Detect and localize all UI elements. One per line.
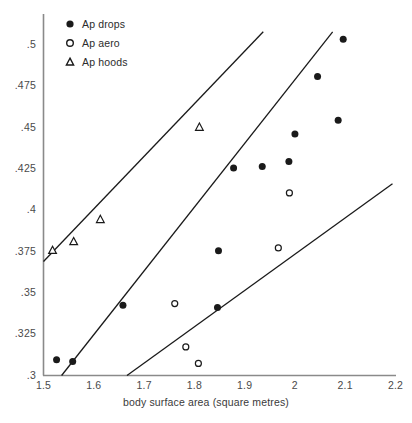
data-point-open-circle xyxy=(172,301,178,307)
series-ap-aero xyxy=(172,190,293,367)
x-tick-label: 1.7 xyxy=(124,379,164,391)
legend-label-ap-hoods: Ap hoods xyxy=(82,56,128,68)
x-tick-label: 2.1 xyxy=(325,379,365,391)
data-point-triangle xyxy=(96,215,104,222)
ap-aero-fit-line xyxy=(127,184,393,376)
data-point-filled-circle xyxy=(340,36,347,43)
legend-label-ap-aero: Ap aero xyxy=(82,37,120,49)
data-point-filled-circle xyxy=(314,73,321,80)
ap-drops-fit-line xyxy=(62,32,333,376)
data-point-open-circle xyxy=(183,344,189,350)
data-point-triangle xyxy=(196,123,204,130)
x-tick-label: 1.8 xyxy=(174,379,214,391)
legend-item-ap-drops: Ap drops xyxy=(62,14,202,33)
legend-item-ap-aero: Ap aero xyxy=(62,33,202,52)
data-point-open-circle xyxy=(275,245,281,251)
filled-circle-icon xyxy=(62,16,78,32)
data-point-filled-circle xyxy=(335,117,342,124)
x-tick-label: 1.9 xyxy=(225,379,265,391)
y-tick-label: .45 xyxy=(2,121,36,133)
y-tick-label: .4 xyxy=(2,203,36,215)
data-point-filled-circle xyxy=(291,130,298,137)
legend: Ap drops Ap aero Ap hoods xyxy=(62,14,202,71)
data-point-filled-circle xyxy=(215,247,222,254)
data-point-filled-circle xyxy=(259,163,266,170)
x-tick-label: 2.2 xyxy=(376,379,412,391)
y-tick-label: .425 xyxy=(2,162,36,174)
x-tick-label: 1.6 xyxy=(74,379,114,391)
series-ap-hoods xyxy=(49,123,204,253)
legend-item-ap-hoods: Ap hoods xyxy=(62,52,202,71)
data-point-triangle xyxy=(70,237,78,244)
data-point-open-circle xyxy=(195,360,201,366)
data-point-filled-circle xyxy=(119,302,126,309)
data-points xyxy=(49,36,347,367)
y-tick-label: .35 xyxy=(2,286,36,298)
scatter-plot-figure: .3.325.35.375.4.425.45.475.5 1.51.61.71.… xyxy=(0,0,412,423)
x-tick-label: 1.5 xyxy=(24,379,64,391)
x-axis-title: body surface area (square metres) xyxy=(0,396,412,408)
open-circle-icon xyxy=(62,35,78,51)
triangle-icon xyxy=(62,54,78,70)
data-point-filled-circle xyxy=(230,165,237,172)
x-tick-label: 2 xyxy=(275,379,315,391)
data-point-filled-circle xyxy=(53,356,60,363)
legend-label-ap-drops: Ap drops xyxy=(82,18,125,30)
data-point-filled-circle xyxy=(69,358,76,365)
y-tick-label: .5 xyxy=(2,38,36,50)
y-tick-label: .375 xyxy=(2,245,36,257)
data-point-filled-circle xyxy=(214,304,221,311)
data-point-filled-circle xyxy=(285,158,292,165)
data-point-open-circle xyxy=(286,190,292,196)
fit-lines xyxy=(44,32,393,376)
y-tick-label: .325 xyxy=(2,327,36,339)
y-tick-label: .475 xyxy=(2,79,36,91)
